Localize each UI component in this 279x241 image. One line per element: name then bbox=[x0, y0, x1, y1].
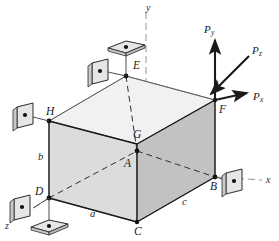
force-label-Px-sub: x bbox=[260, 95, 263, 104]
mechanics-figure: y x z A B C D E F G H b a c Py Pz Px bbox=[0, 0, 279, 241]
plate-edge bbox=[13, 107, 17, 131]
plate-pin-dot bbox=[20, 205, 24, 209]
force-label-Py-sub: y bbox=[211, 28, 214, 37]
support-plate-below-D bbox=[31, 220, 68, 235]
vertex-label-H: H bbox=[46, 106, 54, 118]
plate-pin-dot bbox=[232, 179, 236, 183]
stem-H-side bbox=[33, 117, 49, 121]
force-label-Px-base: P bbox=[253, 90, 260, 102]
plate-pin-dot bbox=[23, 113, 27, 117]
support-plate-at-B bbox=[222, 169, 242, 197]
vertex-dot-A bbox=[135, 149, 140, 154]
force-label-Pz-sub: z bbox=[259, 49, 262, 58]
axis-label-y: y bbox=[146, 3, 150, 13]
force-label-Py: Py bbox=[204, 24, 214, 37]
plate-pin-dot bbox=[47, 224, 51, 228]
dimension-label-b: b bbox=[38, 152, 43, 163]
plate-edge bbox=[10, 199, 14, 223]
force-vectors bbox=[211, 40, 249, 100]
vertex-dot-C bbox=[135, 220, 139, 224]
dimension-label-c: c bbox=[182, 197, 187, 208]
vertex-label-F: F bbox=[219, 104, 226, 116]
stem-E-back bbox=[108, 72, 126, 76]
vertex-label-C: C bbox=[134, 226, 142, 238]
vertex-label-B: B bbox=[210, 181, 217, 193]
axis-label-z: z bbox=[5, 221, 9, 231]
vertex-label-A: A bbox=[124, 158, 131, 170]
force-label-Px: Px bbox=[253, 91, 263, 104]
force-label-Pz: Pz bbox=[252, 45, 262, 58]
force-vector-Pz bbox=[211, 56, 249, 94]
support-plate-at-D bbox=[10, 195, 30, 223]
plate-edge bbox=[222, 173, 226, 197]
support-plate-behind-E bbox=[88, 59, 108, 87]
axis-label-x: x bbox=[266, 175, 270, 185]
support-plate-at-H bbox=[13, 103, 33, 131]
figure-canvas bbox=[0, 0, 279, 241]
stem-D-side bbox=[33, 198, 49, 208]
plate-pin-dot bbox=[98, 69, 102, 73]
dimension-label-a: a bbox=[90, 209, 95, 220]
vertex-label-E: E bbox=[133, 60, 140, 72]
plate-pin-dot bbox=[124, 45, 128, 49]
vertex-label-D: D bbox=[35, 186, 43, 198]
force-label-Pz-base: P bbox=[252, 44, 259, 56]
force-label-Py-base: P bbox=[204, 23, 211, 35]
vertex-label-G: G bbox=[133, 129, 141, 141]
force-vector-Px bbox=[215, 93, 247, 100]
support-plate-above-E bbox=[108, 41, 145, 56]
box-faces bbox=[49, 76, 215, 222]
plate-edge bbox=[88, 63, 92, 87]
